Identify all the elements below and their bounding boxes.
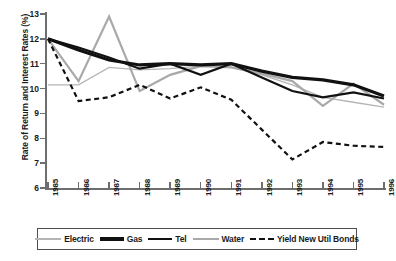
chart-legend: ElectricGasTelWaterYield New Util Bonds — [37, 228, 357, 250]
y-tick-label-text: 10 — [23, 85, 39, 93]
legend-swatch-icon — [148, 238, 172, 240]
legend-item-water[interactable]: Water — [190, 234, 248, 244]
y-tick — [40, 88, 45, 89]
legend-label: Water — [222, 234, 245, 244]
y-tick — [40, 13, 45, 14]
series-line-electric — [48, 66, 384, 107]
y-tick-label: 13 — [17, 10, 39, 18]
y-tick-label: 7 — [17, 159, 39, 167]
legend-label: Electric — [64, 234, 94, 244]
plot-area — [47, 14, 385, 188]
y-tick — [40, 162, 45, 163]
legend-item-gas[interactable]: Gas — [97, 234, 146, 244]
y-tick-label: 10 — [17, 85, 39, 93]
y-tick-label: 6 — [17, 184, 39, 192]
series-lines — [47, 14, 385, 188]
series-line-tel — [48, 39, 384, 99]
x-tick-label: 1996 — [387, 179, 396, 196]
y-tick-label: 12 — [17, 35, 39, 43]
legend-swatch-icon — [250, 238, 274, 240]
y-tick — [40, 38, 45, 39]
y-tick-label: 9 — [17, 109, 39, 117]
y-tick-label-text: 12 — [23, 35, 39, 43]
legend-swatch-icon — [100, 237, 124, 240]
y-tick-label-text: 13 — [23, 10, 39, 18]
y-tick-label: 8 — [17, 134, 39, 142]
legend-label: Tel — [175, 234, 186, 244]
y-tick — [40, 113, 45, 114]
y-tick — [40, 187, 45, 188]
y-tick-label-text: 11 — [23, 60, 39, 68]
legend-swatch-icon — [35, 238, 61, 239]
y-tick-label: 11 — [17, 60, 39, 68]
y-tick — [40, 63, 45, 64]
legend-swatch-icon — [193, 238, 219, 240]
legend-item-electric[interactable]: Electric — [32, 234, 97, 244]
y-tick-label-text: 7 — [23, 159, 39, 167]
y-tick-label-text: 9 — [23, 109, 39, 117]
legend-label: Gas — [127, 234, 143, 244]
y-tick — [40, 138, 45, 139]
legend-item-tel[interactable]: Tel — [145, 234, 189, 244]
legend-label: Yield New Util Bonds — [277, 234, 359, 244]
y-tick-label-text: 6 — [23, 184, 39, 192]
y-tick-label-text: 8 — [23, 134, 39, 142]
legend-item-yield-new-util-bonds[interactable]: Yield New Util Bonds — [247, 234, 362, 244]
